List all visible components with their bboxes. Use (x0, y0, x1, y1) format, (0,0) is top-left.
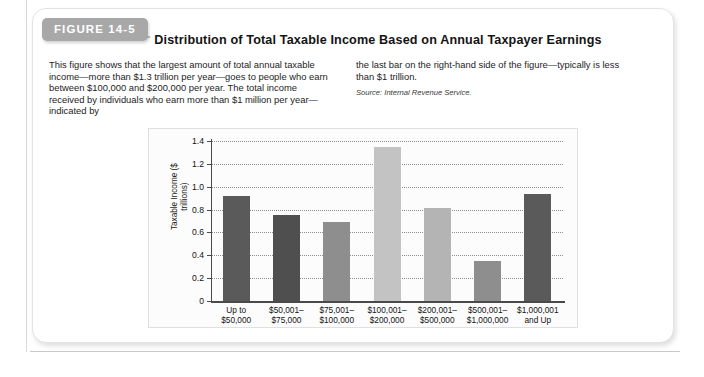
bar (223, 196, 250, 301)
bar (424, 208, 451, 301)
caption-right-text: the last bar on the right-hand side of t… (356, 59, 634, 82)
chart-panel: Taxable Income ($ trillions) 1.41.21.00.… (148, 128, 578, 328)
bar (323, 222, 350, 301)
y-tick-label: 0.2 (192, 273, 204, 283)
y-tick-label: 0.6 (192, 227, 204, 237)
y-tick-mark (207, 301, 212, 302)
chart-title: Distribution of Total Taxable Income Bas… (143, 33, 613, 47)
bar (374, 147, 401, 301)
figure-number-tab: FIGURE 14-5 (42, 18, 148, 41)
x-axis-label-line: $1,000,001 (509, 305, 567, 315)
y-tick-label: 1.2 (192, 159, 204, 169)
x-axis-labels: Up to$50,000$50,001–$75,000$75,001–$100,… (211, 305, 563, 335)
source-note: Source: Internal Revenue Service. (356, 87, 634, 99)
x-axis-label-line: $100,000 (308, 315, 366, 325)
page-bottom-rule (30, 351, 680, 352)
x-axis-label: $75,001–$100,000 (308, 305, 366, 325)
caption-left-text: This figure shows that the largest amoun… (49, 59, 333, 117)
y-tick-label: 1.4 (192, 136, 204, 146)
page-left-rule (26, 0, 27, 352)
bar (273, 215, 300, 301)
bar (524, 194, 551, 301)
y-tick-label: 1.0 (192, 182, 204, 192)
caption-left-column: This figure shows that the largest amoun… (49, 59, 333, 117)
y-tick-label: 0.4 (192, 250, 204, 260)
y-tick-label: 0.8 (192, 205, 204, 215)
caption-right-column: the last bar on the right-hand side of t… (356, 59, 634, 99)
figure-page: FIGURE 14-5 Distribution of Total Taxabl… (0, 0, 704, 377)
y-axis-title-line1: Taxable Income (170, 173, 179, 230)
bar (474, 261, 501, 301)
plot-area: 1.41.21.00.80.60.40.20 Up to$50,000$50,0… (211, 141, 563, 301)
x-axis-label-line: and Up (509, 315, 567, 325)
x-axis-line (211, 301, 565, 303)
bar-series (211, 141, 563, 301)
x-axis-label-line: $75,001– (308, 305, 366, 315)
x-axis-label: $1,000,001and Up (509, 305, 567, 325)
y-tick-label: 0 (199, 296, 204, 306)
y-axis-title: Taxable Income ($ trillions) (170, 154, 189, 240)
